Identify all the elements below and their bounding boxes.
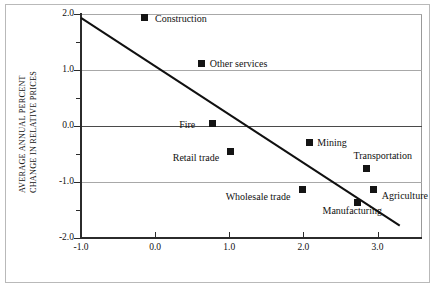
data-point-marker — [299, 186, 306, 193]
gridline-y-0 — [81, 126, 422, 127]
x-tick-label-2: 2.0 — [283, 242, 323, 252]
y-tick-0 — [74, 126, 81, 127]
data-point-marker — [141, 14, 148, 21]
data-point-label: Agriculture — [382, 190, 428, 201]
y-tick-minor--1.5 — [76, 210, 81, 211]
data-point-marker — [198, 60, 205, 67]
x-tick-0 — [155, 232, 156, 238]
x-tick-label-0: 0.0 — [135, 242, 175, 252]
data-point-marker — [209, 120, 216, 127]
y-tick-minor--0.5 — [76, 154, 81, 155]
y-axis-title-line-1: AVERAGE ANNUAL PERCENT — [18, 75, 27, 193]
y-tick-label--1: -1.0 — [40, 176, 74, 186]
data-point-label: Mining — [317, 137, 346, 148]
gridline-y-1 — [81, 70, 422, 71]
gridline-y--1 — [81, 182, 422, 183]
y-tick--2 — [74, 238, 81, 239]
y-tick-minor-0.5 — [76, 98, 81, 99]
y-tick-2 — [74, 14, 81, 15]
chart-figure: AVERAGE ANNUAL PERCENT CHANGE IN RELATIV… — [0, 0, 436, 289]
data-point-label: Transportation — [353, 150, 412, 161]
data-point-label: Wholesale trade — [226, 191, 291, 202]
data-point-marker — [227, 148, 234, 155]
gridline-y-2 — [81, 14, 422, 15]
x-tick-2 — [303, 232, 304, 238]
data-point-marker — [306, 139, 313, 146]
y-tick-minor-1.5 — [76, 42, 81, 43]
x-axis-spine — [80, 237, 422, 239]
data-point-label: Fire — [179, 119, 195, 130]
x-tick-label-1: 1.0 — [209, 242, 249, 252]
y-tick-1 — [74, 70, 81, 71]
data-point-label: Other services — [210, 58, 267, 69]
data-point-label: Manufacturing — [323, 205, 382, 216]
y-tick--1 — [74, 182, 81, 183]
x-tick-label-3: 3.0 — [358, 242, 398, 252]
y-tick-label--2: -2.0 — [40, 232, 74, 242]
x-tick-3 — [378, 232, 379, 238]
y-axis-title: AVERAGE ANNUAL PERCENT CHANGE IN RELATIV… — [16, 6, 56, 186]
data-point-label: Retail trade — [173, 152, 219, 163]
x-tick-1 — [229, 232, 230, 238]
data-point-marker — [370, 186, 377, 193]
y-tick-label-0: 0.0 — [40, 120, 74, 130]
data-point-marker — [363, 165, 370, 172]
data-point-label: Construction — [155, 13, 207, 24]
y-tick-label-1: 1.0 — [40, 64, 74, 74]
y-axis-title-line-2: CHANGE IN RELATIVE PRICES — [29, 71, 38, 193]
y-tick-label-2: 2.0 — [40, 8, 74, 18]
x-tick--1 — [81, 232, 82, 238]
x-tick-label--1: -1.0 — [61, 242, 101, 252]
